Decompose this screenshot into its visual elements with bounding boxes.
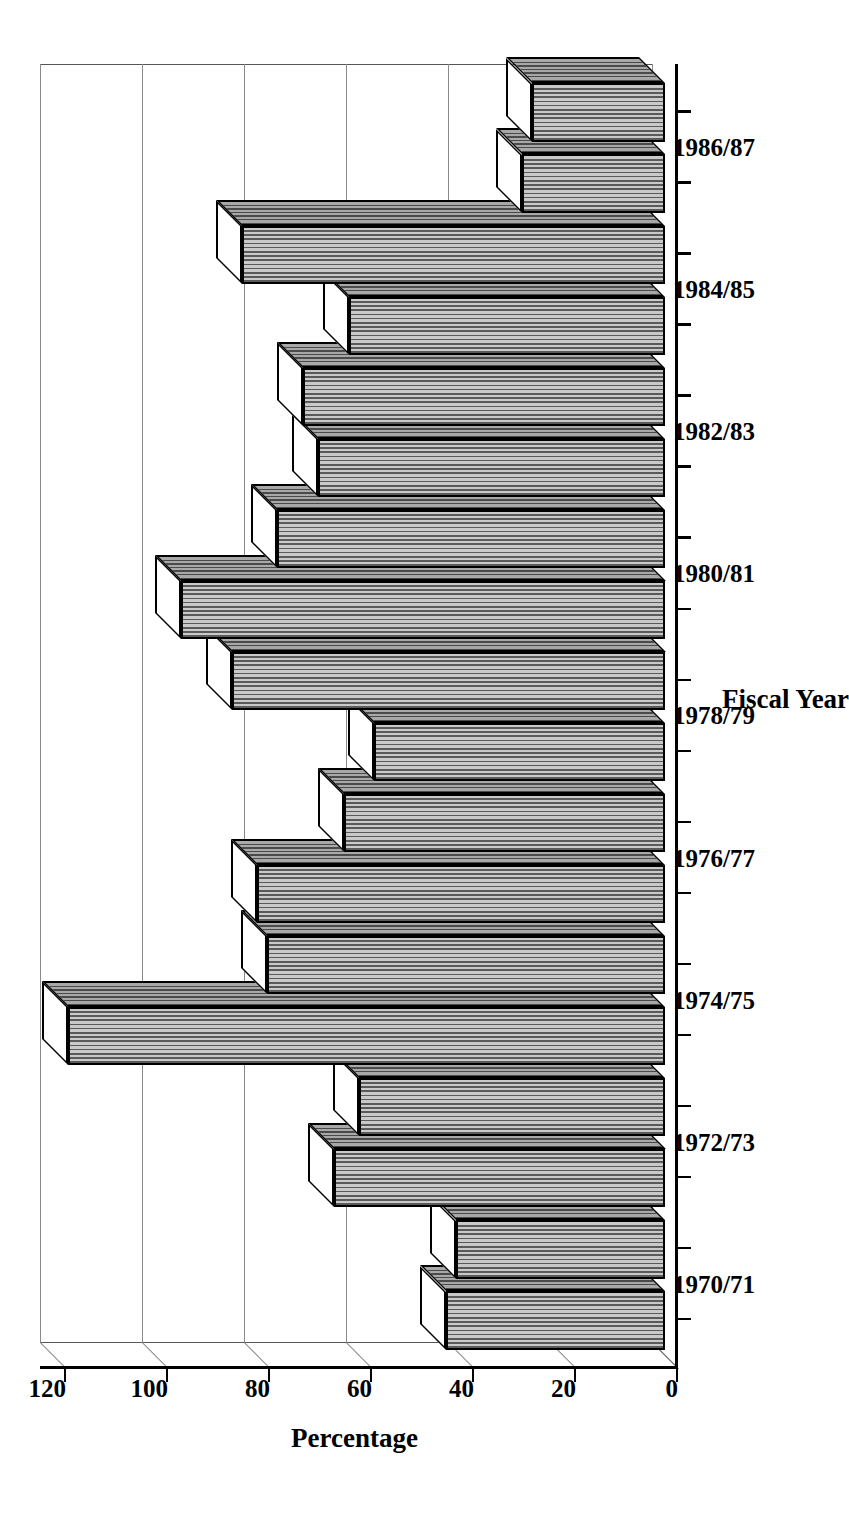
x-axis-tick-label: 1980/81 — [673, 560, 755, 588]
bar-front-face — [334, 1149, 666, 1207]
bar — [68, 1007, 665, 1065]
x-axis-tick-label: 1984/85 — [673, 276, 755, 304]
bar — [277, 510, 665, 568]
x-axis-tick-label: 1978/79 — [673, 703, 755, 731]
bar-side-face — [506, 57, 665, 83]
y-axis-tick-label: 40 — [449, 1375, 474, 1403]
bar — [181, 581, 666, 639]
x-axis-tick — [678, 1247, 691, 1249]
gridline-depth-edge — [346, 1342, 373, 1369]
gridline — [142, 64, 143, 1343]
gridline-depth-edge — [244, 1342, 271, 1369]
gridline — [40, 64, 41, 1343]
bar — [257, 865, 665, 923]
x-axis-tick — [678, 608, 691, 610]
x-axis-tick-label: 1974/75 — [673, 987, 755, 1015]
bar-front-face — [318, 439, 665, 497]
y-axis-tick-label: 100 — [131, 1375, 169, 1403]
x-axis-tick — [678, 1176, 691, 1178]
bar — [232, 652, 666, 710]
x-axis-tick — [678, 1105, 691, 1107]
bar-front-face — [532, 83, 665, 141]
x-axis-tick — [678, 465, 691, 467]
y-axis-line — [40, 1366, 678, 1369]
bar — [349, 297, 665, 355]
y-axis-title: Percentage — [291, 1423, 418, 1454]
bar — [267, 936, 665, 994]
bar-front-face — [349, 297, 665, 355]
bar — [522, 154, 665, 212]
x-axis-tick — [678, 323, 691, 325]
x-axis-tick — [678, 1034, 691, 1036]
bar-front-face — [257, 865, 665, 923]
x-axis-tick — [678, 679, 691, 681]
bar-front-face — [456, 1220, 665, 1278]
x-axis-tick — [678, 181, 691, 183]
bar-front-face — [68, 1007, 665, 1065]
bar-front-face — [267, 936, 665, 994]
x-axis-tick-label: 1976/77 — [673, 845, 755, 873]
bar — [374, 723, 665, 781]
bar-front-face — [242, 226, 665, 284]
y-axis-tick-label: 120 — [29, 1375, 67, 1403]
bar — [344, 794, 665, 852]
y-axis-tick-label: 60 — [347, 1375, 372, 1403]
bar — [334, 1149, 666, 1207]
y-axis-tick-label: 0 — [666, 1375, 679, 1403]
y-axis-tick-label: 80 — [245, 1375, 270, 1403]
x-axis-tick-label: 1972/73 — [673, 1129, 755, 1157]
gridline-depth-edge — [40, 1342, 67, 1369]
bar-front-face — [446, 1291, 665, 1349]
x-axis-tick — [678, 821, 691, 823]
bar-front-face — [277, 510, 665, 568]
bar — [318, 439, 665, 497]
x-axis-tick — [678, 892, 691, 894]
y-axis-tick-label: 20 — [551, 1375, 576, 1403]
plot-area: 020406080100120 1970/711972/731974/75197… — [40, 64, 678, 1369]
bar-front-face — [344, 794, 665, 852]
bar-front-face — [522, 154, 665, 212]
bar-front-face — [359, 1078, 665, 1136]
bar — [532, 83, 665, 141]
x-axis-tick — [678, 110, 691, 112]
gridline-depth-edge — [142, 1342, 169, 1369]
bar — [456, 1220, 665, 1278]
bar-front-face — [303, 368, 665, 426]
x-axis-tick — [678, 252, 691, 254]
x-axis-tick — [678, 963, 691, 965]
bar-front-face — [232, 652, 666, 710]
x-axis-tick-label: 1982/83 — [673, 418, 755, 446]
bar — [446, 1291, 665, 1349]
bar — [303, 368, 665, 426]
x-axis-tick — [678, 1318, 691, 1320]
bar — [359, 1078, 665, 1136]
x-axis-tick-label: 1986/87 — [673, 134, 755, 162]
x-axis-tick — [678, 750, 691, 752]
x-axis-tick — [678, 394, 691, 396]
x-axis-tick — [678, 536, 691, 538]
x-axis-tick-label: 1970/71 — [673, 1271, 755, 1299]
bar — [242, 226, 665, 284]
bar-front-face — [374, 723, 665, 781]
bar-front-face — [181, 581, 666, 639]
